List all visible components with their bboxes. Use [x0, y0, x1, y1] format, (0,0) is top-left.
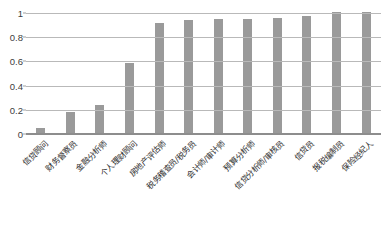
bar-slot	[203, 13, 233, 133]
bar-series	[26, 13, 381, 133]
bar-slot	[233, 13, 263, 133]
y-axis: 10.80.60.40.20	[0, 13, 26, 134]
x-axis-tick-label-text: 报税编制员	[309, 137, 345, 173]
bar-slot	[115, 13, 145, 133]
gridline	[26, 13, 381, 14]
bar-slot	[144, 13, 174, 133]
bar-slot	[292, 13, 322, 133]
y-axis-tick-label: 0.4	[10, 80, 23, 91]
gridline	[26, 110, 381, 111]
bar-slot	[174, 13, 204, 133]
y-axis-tick-label: 0.2	[10, 104, 23, 115]
bar[interactable]	[155, 23, 164, 133]
x-axis-tick-label-text: 信贷员	[290, 137, 315, 162]
bar-slot	[351, 13, 381, 133]
bar[interactable]	[332, 12, 341, 133]
gridline	[26, 86, 381, 87]
y-axis-tick-label: 0.6	[10, 56, 23, 67]
bar[interactable]	[362, 12, 371, 133]
x-axis-category-labels: 信贷顾问财务督察员金融分析师个人理财顾问房地产评估师税务稽查员/税务员会计师/审…	[26, 135, 381, 227]
x-axis-tick-label-text: 财务督察员	[43, 137, 79, 173]
gridline	[26, 61, 381, 62]
bar[interactable]	[125, 63, 134, 133]
y-axis-tick-label: 0.8	[10, 32, 23, 43]
bar-slot	[85, 13, 115, 133]
bar[interactable]	[66, 112, 75, 133]
bar-slot	[322, 13, 352, 133]
bar-slot	[26, 13, 56, 133]
bar-slot	[56, 13, 86, 133]
bar[interactable]	[302, 16, 311, 133]
x-axis-tick-label-text: 保险经纪人	[339, 137, 375, 173]
bar[interactable]	[273, 18, 282, 133]
gridline	[26, 37, 381, 38]
bar-chart: 10.80.60.40.20 信贷顾问财务督察员金融分析师个人理财顾问房地产评估…	[0, 0, 384, 227]
bar-slot	[263, 13, 293, 133]
plot-area	[26, 13, 381, 134]
